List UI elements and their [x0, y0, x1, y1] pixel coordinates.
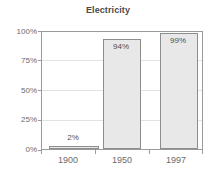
- bar-1997: [160, 33, 198, 149]
- x-tick-mark-right: [202, 150, 203, 154]
- x-tick-mark-2: [149, 150, 150, 154]
- x-axis-label-1950: 1950: [102, 155, 142, 166]
- chart-title: Electricity: [0, 5, 216, 16]
- bar-1950: [103, 39, 141, 149]
- bar-value-1997: 99%: [159, 36, 197, 45]
- y-axis-label-75: 75%: [3, 56, 37, 65]
- x-axis-label-1997: 1997: [156, 155, 196, 166]
- y-axis-label-25: 25%: [3, 115, 37, 124]
- y-axis-label-100: 100%: [3, 27, 37, 36]
- y-axis-label-0: 0%: [3, 145, 37, 154]
- bar-value-1900: 2%: [48, 133, 98, 142]
- y-axis-label-50: 50%: [3, 86, 37, 95]
- x-tick-mark-left: [41, 150, 42, 154]
- bar-value-1950: 94%: [102, 42, 140, 51]
- bar-chart: Electricity 100% 75% 50% 25% 0% 2% 94% 9…: [0, 0, 216, 177]
- bar-1900: [49, 146, 99, 149]
- x-axis-label-1900: 1900: [48, 155, 88, 166]
- x-tick-mark-1: [95, 150, 96, 154]
